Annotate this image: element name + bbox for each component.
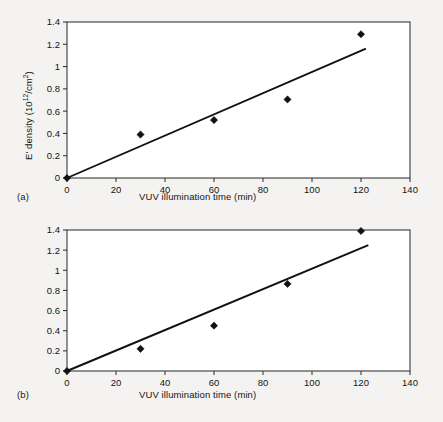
- page-background: 00.20.40.60.811.21.4020406080100120140 E…: [0, 0, 443, 422]
- x-axis-tick-label: 80: [258, 184, 269, 195]
- y-axis-tick-label: 1: [55, 265, 60, 276]
- x-axis-tick-label: 20: [111, 184, 122, 195]
- y-axis-tick-label: 1.2: [47, 39, 60, 50]
- y-axis-tick-label: 1.2: [47, 245, 60, 256]
- y-axis-tick-label: 0.6: [47, 305, 60, 316]
- panel-label-b: (b): [17, 389, 29, 400]
- x-axis-tick-label: 0: [64, 184, 69, 195]
- y-axis-tick-label: 0.4: [47, 325, 60, 336]
- y-axis-tick-label: 0: [55, 172, 60, 183]
- x-axis-tick-label: 140: [402, 184, 418, 195]
- plot-area-a: 00.20.40.60.811.21.4020406080100120140: [0, 0, 443, 211]
- chart-panel-b: 00.20.40.60.811.21.4020406080100120140 C…: [0, 205, 443, 422]
- panel-label-a: (a): [17, 191, 29, 202]
- x-axis-tick-label: 100: [304, 184, 320, 195]
- x-axis-tick-label: 20: [111, 377, 122, 388]
- y-axis-tick-label: 0.8: [47, 83, 60, 94]
- x-axis-label-b: VUV illumination time (min): [139, 389, 256, 400]
- x-axis-tick-label: 120: [353, 377, 369, 388]
- y-axis-tick-label: 0.4: [47, 128, 60, 139]
- x-axis-label-a: VUV illumination time (min): [139, 191, 256, 202]
- y-axis-tick-label: 0.2: [47, 345, 60, 356]
- y-axis-tick-label: 1: [55, 61, 60, 72]
- x-axis-tick-label: 80: [258, 377, 269, 388]
- y-axis-tick-label: 0.8: [47, 285, 60, 296]
- y-axis-tick-label: 1.4: [47, 224, 60, 235]
- y-axis-tick-label: 0: [55, 365, 60, 376]
- y-axis-tick-label: 1.4: [47, 16, 60, 27]
- y-axis-tick-label: 0.6: [47, 106, 60, 117]
- x-axis-tick-label: 60: [209, 377, 220, 388]
- chart-panel-a: 00.20.40.60.811.21.4020406080100120140 E…: [0, 0, 443, 211]
- figure: 00.20.40.60.811.21.4020406080100120140 E…: [0, 0, 443, 422]
- x-axis-tick-label: 140: [402, 377, 418, 388]
- x-axis-tick-label: 40: [160, 377, 171, 388]
- y-axis-tick-label: 0.2: [47, 150, 60, 161]
- x-axis-tick-label: 120: [353, 184, 369, 195]
- x-axis-tick-label: 0: [64, 377, 69, 388]
- plot-frame: [67, 22, 410, 178]
- y-axis-label-a: E' density (1012/cm2): [22, 71, 34, 160]
- x-axis-tick-label: 100: [304, 377, 320, 388]
